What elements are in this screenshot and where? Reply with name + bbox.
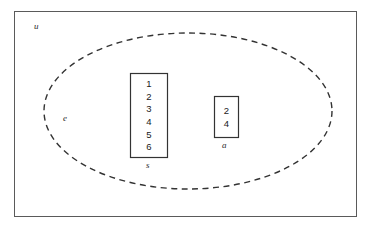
set-a-label: a xyxy=(222,141,227,150)
set-s-member: 6 xyxy=(146,142,151,152)
set-s-member: 5 xyxy=(146,130,151,140)
universe-label: u xyxy=(34,22,39,31)
set-a-member: 4 xyxy=(224,119,229,129)
ellipse-label: e xyxy=(63,114,67,123)
set-s-member: 2 xyxy=(146,92,151,102)
ellipse-set-e xyxy=(44,33,332,189)
set-s-member: 4 xyxy=(146,117,151,127)
set-a-members: 2 4 xyxy=(214,96,239,138)
diagram-vector-layer xyxy=(0,0,371,230)
set-s-label: s xyxy=(146,161,150,170)
set-s-members: 1 2 3 4 5 6 xyxy=(130,73,168,158)
set-a-member: 2 xyxy=(224,106,229,116)
set-s-member: 3 xyxy=(146,104,151,114)
set-diagram-canvas: u e 1 2 3 4 5 6 s 2 4 a xyxy=(0,0,371,230)
set-s-member: 1 xyxy=(146,79,151,89)
